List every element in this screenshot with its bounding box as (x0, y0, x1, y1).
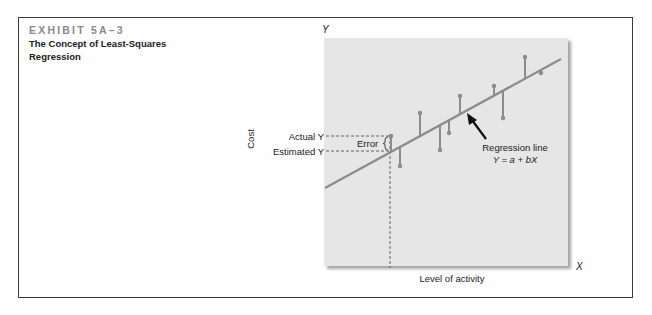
x-axis-label: Level of activity (420, 273, 485, 284)
data-point (492, 84, 496, 88)
data-point (523, 55, 527, 59)
regression-equation: Y = a + bX (493, 154, 538, 165)
data-point (418, 111, 422, 115)
data-point (447, 131, 451, 135)
data-point (398, 164, 402, 168)
data-point (501, 116, 505, 120)
data-point (539, 71, 543, 75)
y-axis-label: Cost (245, 129, 256, 149)
data-point (389, 134, 393, 138)
actual-y-label: Actual Y (289, 131, 325, 142)
estimated-y-label: Estimated Y (273, 146, 325, 157)
y-axis-symbol: Y (322, 24, 330, 35)
data-point (458, 94, 462, 98)
regression-line-label: Regression line (482, 142, 547, 153)
regression-diagram: Y X Level of activity Cost Actual Y Esti… (0, 0, 652, 315)
x-axis-symbol: X (575, 261, 583, 272)
data-point (438, 148, 442, 152)
error-label: Error (357, 138, 378, 149)
